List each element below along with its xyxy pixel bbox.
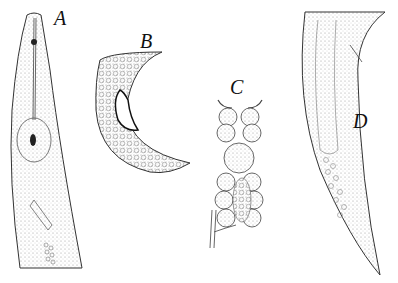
- panel-b-drawing: [96, 52, 190, 173]
- panel-label-a: A: [54, 8, 66, 28]
- panel-label-c: C: [230, 77, 243, 97]
- nematode-figure: A B C D: [0, 0, 398, 283]
- panel-label-b: B: [140, 31, 152, 51]
- panel-label-d: D: [353, 111, 367, 131]
- illustration-drawing: [0, 0, 398, 283]
- panel-a-drawing: [11, 13, 82, 268]
- panel-d-drawing: [302, 12, 385, 275]
- panel-c-drawing: [210, 100, 263, 248]
